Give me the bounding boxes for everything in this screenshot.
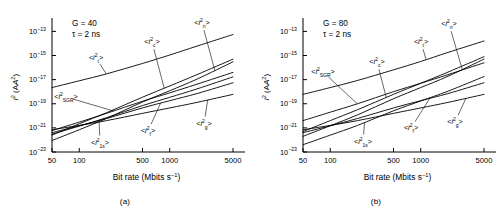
leader-line-iff xyxy=(151,103,161,124)
x-axis-label: Bit rate (Mbits s−1) xyxy=(113,172,181,182)
y-axis-label: i2 (AA2) xyxy=(10,74,20,101)
curve-label-ic: <i2c> xyxy=(369,56,384,68)
x-tick-label: 5000 xyxy=(476,156,493,165)
x-tick-label: 1000 xyxy=(161,156,178,165)
curve-label-isgr: <i2SGR> xyxy=(54,91,78,103)
y-tick-label: 10−23 xyxy=(280,146,297,156)
curve-label-isu: <i21s> xyxy=(91,137,109,149)
leader-line-isu xyxy=(364,123,365,135)
svg-text:<i2c>: <i2c> xyxy=(369,56,384,68)
plot-b: 10−1310−1510−1710−1910−2110−235010050010… xyxy=(251,0,501,208)
y-tick-label: 10−15 xyxy=(280,50,297,60)
y-tick-label: 10−13 xyxy=(29,26,46,36)
curve-it xyxy=(52,35,233,88)
x-tick-label: 100 xyxy=(324,156,337,165)
panel-b-caption: (b) xyxy=(251,197,501,206)
plot-a: 10−1310−1510−1710−1910−2110−235010050010… xyxy=(0,0,250,208)
curve-label-isu: <i21s> xyxy=(354,136,372,148)
curve-label-ig: <i2g> xyxy=(196,118,212,130)
panel-a: 10−1310−1510−1710−1910−2110−235010050010… xyxy=(0,0,250,208)
leader-line-isgr xyxy=(328,77,357,104)
annotation-tau: τ = 2 ns xyxy=(72,30,100,39)
svg-text:<i2g>: <i2g> xyxy=(196,118,212,130)
panel-a-caption: (a) xyxy=(0,197,250,206)
x-tick-label: 500 xyxy=(136,156,149,165)
curve-label-it: <i2t> xyxy=(89,52,103,64)
x-tick-label: 500 xyxy=(387,156,400,165)
figure-noise-vs-bitrate: 10−1310−1510−1710−1910−2110−235010050010… xyxy=(0,0,501,208)
svg-text:<i2SGR>: <i2SGR> xyxy=(54,91,78,103)
leader-line-ig xyxy=(205,100,208,117)
panel-b: 10−1310−1510−1710−1910−2110−235010050010… xyxy=(251,0,501,208)
y-tick-label: 10−21 xyxy=(29,122,46,132)
svg-text:<i2g>: <i2g> xyxy=(447,116,463,128)
svg-text:<i2n>: <i2n> xyxy=(194,17,210,29)
curve-label-ig: <i2g> xyxy=(447,116,463,128)
svg-text:<i2c>: <i2c> xyxy=(144,36,159,48)
curve-label-in: <i2n> xyxy=(194,17,210,29)
annotation-gain: G = 80 xyxy=(323,19,348,28)
svg-text:<i2t>: <i2t> xyxy=(89,52,103,64)
svg-text:i2 (AA2): i2 (AA2) xyxy=(10,74,20,101)
svg-text:<i21s>: <i21s> xyxy=(91,137,109,149)
y-tick-label: 10−17 xyxy=(280,74,297,84)
svg-text:i2 (AA2): i2 (AA2) xyxy=(261,74,271,101)
panel-annotation: G = 80τ = 2 ns xyxy=(323,19,351,39)
svg-text:<i2t>: <i2t> xyxy=(414,36,428,48)
y-tick-label: 10−19 xyxy=(280,98,297,108)
curve-label-ic: <i2c> xyxy=(144,36,159,48)
plot-area-b: 10−1310−1510−1710−1910−2110−235010050010… xyxy=(261,18,496,182)
x-tick-label: 5000 xyxy=(225,156,242,165)
curve-label-iff: <i2f> xyxy=(141,125,155,137)
leader-line-in xyxy=(204,30,215,70)
svg-text:<i2n>: <i2n> xyxy=(441,18,457,30)
annotation-tau: τ = 2 ns xyxy=(323,30,351,39)
x-tick-label: 100 xyxy=(73,156,86,165)
svg-text:<i2SGR>: <i2SGR> xyxy=(311,66,335,78)
leader-line-isgr xyxy=(73,99,113,111)
x-tick-label: 50 xyxy=(299,156,307,165)
y-tick-label: 10−17 xyxy=(29,74,46,84)
panel-annotation: G = 40τ = 2 ns xyxy=(72,19,100,39)
curve-label-iff: <i2f> xyxy=(404,122,418,134)
leader-line-it xyxy=(423,49,426,59)
svg-text:<i2f>: <i2f> xyxy=(141,125,155,137)
y-tick-label: 10−23 xyxy=(29,146,46,156)
y-tick-label: 10−19 xyxy=(29,98,46,108)
curve-label-isgr: <i2SGR> xyxy=(311,66,335,78)
leader-line-in xyxy=(451,31,462,69)
curve-label-in: <i2n> xyxy=(441,18,457,30)
svg-text:<i2f>: <i2f> xyxy=(404,122,418,134)
curve-isu xyxy=(303,77,484,145)
svg-text:<i21s>: <i21s> xyxy=(354,136,372,148)
y-axis-label: i2 (AA2) xyxy=(261,74,271,101)
annotation-gain: G = 40 xyxy=(72,19,97,28)
leader-line-ic xyxy=(154,49,164,88)
x-tick-label: 50 xyxy=(48,156,56,165)
y-tick-label: 10−21 xyxy=(280,122,297,132)
plot-area-a: 10−1310−1510−1710−1910−2110−235010050010… xyxy=(10,17,245,182)
leader-line-it xyxy=(100,64,106,74)
curves xyxy=(303,41,484,145)
x-tick-label: 1000 xyxy=(412,156,429,165)
y-tick-label: 10−13 xyxy=(280,26,297,36)
x-axis-label: Bit rate (Mbits s−1) xyxy=(364,172,432,182)
y-tick-label: 10−15 xyxy=(29,50,46,60)
curve-label-it: <i2t> xyxy=(414,36,428,48)
leader-line-ig xyxy=(458,98,466,115)
